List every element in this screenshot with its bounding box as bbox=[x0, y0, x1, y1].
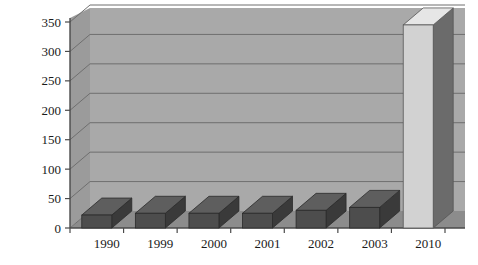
y-axis-tick-label: 0 bbox=[55, 221, 62, 236]
y-axis-tick-label: 100 bbox=[42, 162, 62, 177]
x-axis-tick-label: 2000 bbox=[201, 236, 227, 251]
chart-canvas: 050100150200250300350 199019992000200120… bbox=[0, 0, 478, 265]
y-axis-tick-label: 150 bbox=[42, 132, 62, 147]
plot-left-wall bbox=[70, 8, 90, 228]
y-axis-tick-label: 350 bbox=[42, 15, 62, 30]
y-axis-tick-labels: 050100150200250300350 bbox=[42, 15, 62, 236]
x-axis-ticks bbox=[70, 228, 445, 233]
x-axis-tick-label: 2002 bbox=[308, 236, 334, 251]
x-axis-tick-label: 1990 bbox=[94, 236, 120, 251]
x-axis-tick-labels: 1990199920002001200220032010 bbox=[94, 236, 441, 251]
x-axis-tick-label: 2003 bbox=[362, 236, 388, 251]
bar-2010 bbox=[403, 8, 453, 228]
x-axis-tick-label: 2001 bbox=[255, 236, 281, 251]
y-axis-tick-label: 50 bbox=[48, 191, 61, 206]
y-axis-tick-label: 200 bbox=[42, 103, 62, 118]
x-axis-tick-label: 2010 bbox=[415, 236, 441, 251]
y-axis-tick-label: 300 bbox=[42, 44, 62, 59]
y-axis-tick-label: 250 bbox=[42, 73, 62, 88]
y-axis-ticks bbox=[65, 22, 70, 228]
x-axis-tick-label: 1999 bbox=[147, 236, 173, 251]
bar-chart: 050100150200250300350 199019992000200120… bbox=[0, 0, 478, 265]
